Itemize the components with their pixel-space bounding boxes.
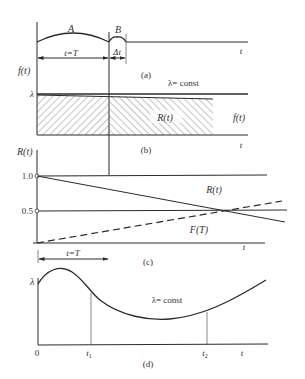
panel-a-y-label: f(t) (18, 65, 31, 77)
reliability-figure: A B t=T Δt t f(t) (a) λ= const λ R(t) f(… (0, 0, 305, 379)
panel-a-axis-label: t (240, 46, 243, 56)
tick-label-1: 1.0 (22, 171, 34, 181)
reliability-line-label: R(t) (205, 184, 222, 196)
reference-line-1 (37, 175, 267, 176)
t2-label: t2 (202, 348, 208, 359)
panel-b-axis-label: t (240, 140, 243, 150)
reliability-region-label: R(t) (156, 112, 173, 124)
tick-label-05: 0.5 (22, 206, 34, 216)
panel-d-time-axis (38, 344, 268, 345)
panel-c-interval-label: t=T (66, 248, 81, 258)
arc-a (37, 33, 109, 42)
hazard-const-text: λ= const (152, 295, 183, 305)
panel-c: R(t) 1.0 0.5 R(t) F(T) t t=T (c) (16, 146, 287, 267)
panel-a-caption: (a) (141, 70, 151, 80)
lambda-mark: λ (29, 89, 34, 99)
reliability-line (37, 176, 285, 222)
reference-line-05 (37, 210, 287, 211)
tick-marker-05 (35, 209, 39, 213)
arc-b-label: B (115, 24, 121, 35)
panel-d-caption: (d) (143, 359, 154, 369)
hatched-region-left (37, 95, 109, 135)
arc-b (109, 37, 126, 42)
origin-label: 0 (35, 348, 40, 358)
figure-canvas: A B t=T Δt t f(t) (a) λ= const λ R(t) f(… (0, 0, 305, 379)
panel-c-caption: (c) (143, 257, 153, 267)
lambda-const-text: λ= const (168, 78, 199, 88)
panel-d-y-label: λ (29, 276, 35, 287)
panel-d: λ λ= const 0 t1 t2 t (d) (29, 268, 268, 369)
interval-label: t=T (64, 48, 79, 58)
panel-b-caption: (b) (141, 145, 152, 155)
hazard-rate-curve (38, 268, 266, 319)
panel-c-y-label: R(t) (16, 146, 33, 158)
failure-line (37, 201, 282, 243)
delta-label: Δt (112, 47, 121, 57)
failure-line-label: F(T) (189, 224, 209, 236)
panel-b: R(t) f(t) t (b) (37, 95, 248, 155)
panel-d-axis-label: t (241, 348, 244, 358)
t1-label: t1 (86, 348, 92, 359)
density-curve-label: f(t) (233, 112, 246, 124)
arc-a-label: A (67, 23, 75, 34)
